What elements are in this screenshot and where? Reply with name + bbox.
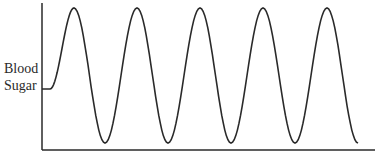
blood-sugar-line [42, 8, 358, 143]
chart-plot [0, 0, 375, 163]
